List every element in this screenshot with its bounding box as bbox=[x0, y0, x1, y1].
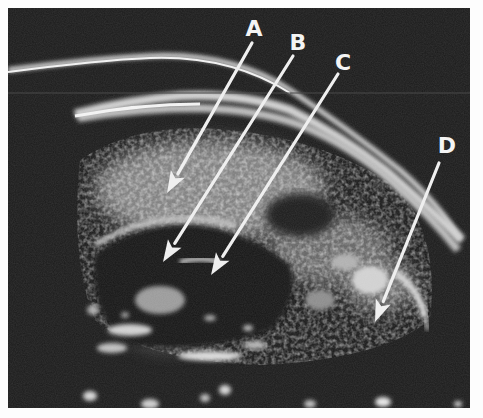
label-a: A bbox=[245, 16, 262, 41]
label-c: C bbox=[335, 50, 351, 75]
label-b: B bbox=[290, 30, 307, 55]
figure-frame: ABCD bbox=[0, 0, 483, 418]
label-d: D bbox=[438, 133, 456, 158]
ultrasound-image: ABCD bbox=[0, 0, 483, 418]
